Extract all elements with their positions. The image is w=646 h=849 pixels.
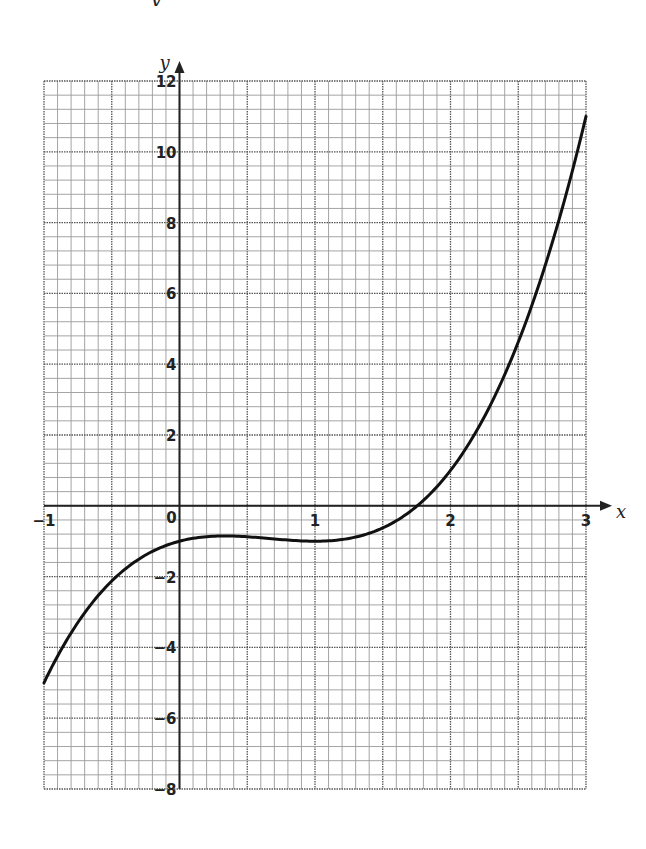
y-tick-label: 12 <box>156 73 177 91</box>
x-tick-label: 2 <box>445 512 455 530</box>
y-axis-label: y <box>159 52 171 73</box>
y-tick-label: 10 <box>156 144 177 162</box>
grid <box>44 81 586 789</box>
y-tick-label: −4 <box>153 639 176 657</box>
y-tick-label: −6 <box>153 710 176 728</box>
y-tick-label: −8 <box>153 781 176 799</box>
cubic-graph: xy−1123012108642−2−4−6−8 <box>0 0 646 849</box>
x-tick-label: −1 <box>32 512 55 530</box>
y-tick-label: 6 <box>166 285 176 303</box>
tick-labels: xy−1123012108642−2−4−6−8 <box>32 52 626 799</box>
y-tick-label: 4 <box>166 356 176 374</box>
y-tick-label: 2 <box>166 427 176 445</box>
x-axis-arrow-icon <box>600 501 612 511</box>
axes <box>44 61 612 789</box>
y-tick-label: 8 <box>166 215 176 233</box>
x-tick-label: 3 <box>581 512 591 530</box>
origin-label: 0 <box>166 509 176 527</box>
y-axis-arrow-icon <box>175 61 185 73</box>
x-tick-label: 1 <box>310 512 320 530</box>
x-axis-label: x <box>616 501 626 522</box>
y-tick-label: −2 <box>153 569 176 587</box>
